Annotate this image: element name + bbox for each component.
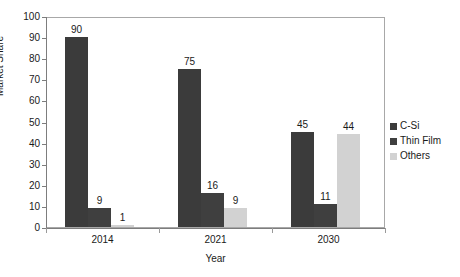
- plot-area: 909175169451144: [46, 17, 385, 228]
- legend-swatch-icon: [390, 153, 397, 160]
- bar-value-label: 1: [120, 213, 126, 223]
- x-axis-group-separator: [385, 228, 386, 233]
- legend-label: C-Si: [400, 121, 419, 131]
- bar: [337, 134, 360, 227]
- legend-swatch-icon: [390, 123, 397, 130]
- bar-value-label: 9: [97, 196, 103, 206]
- bar: [291, 132, 314, 227]
- y-axis-title: Market Share: [0, 36, 5, 96]
- bar-value-label: 90: [71, 25, 82, 35]
- x-axis-group-separator: [46, 228, 47, 233]
- bar: [111, 225, 134, 227]
- bars-layer: 909175169451144: [47, 18, 384, 227]
- legend-item: Thin Film: [390, 134, 441, 148]
- bar-chart: Market Share 0102030405060708090100 9091…: [0, 0, 460, 277]
- bar: [224, 208, 247, 227]
- x-axis-tick-label: 2014: [91, 234, 113, 245]
- x-axis-tick-label: 2030: [317, 234, 339, 245]
- x-axis-tick-label: 2021: [204, 234, 226, 245]
- bar-value-label: 9: [233, 196, 239, 206]
- bar-value-label: 16: [207, 181, 218, 191]
- legend-swatch-icon: [390, 138, 397, 145]
- legend-item: Others: [390, 149, 441, 163]
- bar: [65, 37, 88, 227]
- x-axis-title: Year: [46, 253, 385, 264]
- bar: [178, 69, 201, 227]
- bar-value-label: 75: [184, 57, 195, 67]
- bar-value-label: 45: [297, 120, 308, 130]
- bar: [88, 208, 111, 227]
- x-axis-group-separator: [159, 228, 160, 233]
- bar-value-label: 44: [343, 122, 354, 132]
- x-axis-line: [46, 228, 385, 229]
- legend: C-SiThin FilmOthers: [390, 119, 441, 164]
- y-axis-line: [46, 17, 47, 228]
- legend-label: Others: [400, 151, 430, 161]
- bar: [314, 204, 337, 227]
- legend-label: Thin Film: [400, 136, 441, 146]
- bar-value-label: 11: [320, 192, 330, 202]
- legend-item: C-Si: [390, 119, 441, 133]
- x-axis-group-separator: [272, 228, 273, 233]
- bar: [201, 193, 224, 227]
